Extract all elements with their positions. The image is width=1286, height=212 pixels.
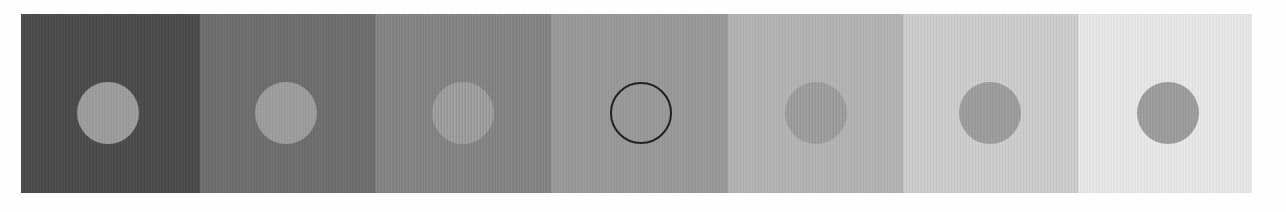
gray-disc-1 (77, 82, 139, 144)
contrast-panel-6 (903, 14, 1078, 193)
contrast-panel-7 (1078, 14, 1252, 193)
contrast-panel-1 (21, 14, 200, 193)
contrast-panel-5 (728, 14, 903, 193)
figure-root (0, 0, 1286, 212)
contrast-panel-3 (375, 14, 551, 193)
gray-disc-2 (255, 82, 317, 144)
outlined-disc-4 (610, 82, 672, 144)
gray-disc-6 (959, 82, 1021, 144)
contrast-panel-2 (200, 14, 375, 193)
gray-disc-3 (432, 82, 494, 144)
contrast-strip (21, 14, 1252, 193)
gray-disc-5 (785, 82, 847, 144)
contrast-panel-4 (551, 14, 728, 193)
gray-disc-7 (1137, 82, 1199, 144)
